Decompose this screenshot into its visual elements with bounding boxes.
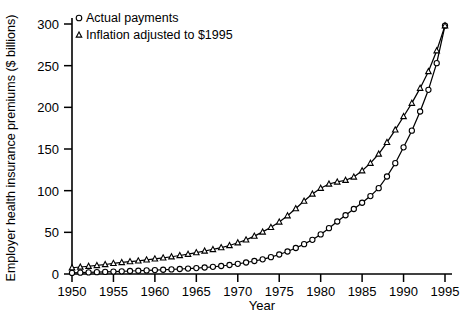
y-tick-label: 250 <box>37 59 59 74</box>
y-tick-label: 150 <box>37 142 59 157</box>
y-tick-label: 0 <box>52 267 59 282</box>
data-point-marker <box>260 229 266 234</box>
data-point-marker <box>152 256 158 261</box>
chart-figure: Employer health insurance premiums ($ bi… <box>0 0 460 326</box>
data-point-marker <box>384 174 389 179</box>
data-point-marker <box>86 263 92 268</box>
data-point-marker <box>144 268 149 273</box>
legend-marker-triangle-icon <box>76 32 82 37</box>
x-tick-label: 1975 <box>265 284 294 299</box>
data-point-marker <box>160 255 166 260</box>
data-point-marker <box>285 249 290 254</box>
data-point-marker <box>301 242 306 247</box>
data-point-marker <box>360 200 365 205</box>
data-point-marker <box>69 265 75 270</box>
x-tick-label: 1955 <box>99 284 128 299</box>
data-point-marker <box>185 266 190 271</box>
data-point-marker <box>368 193 373 198</box>
data-point-marker <box>418 109 423 114</box>
x-tick-label: 1950 <box>58 284 87 299</box>
x-axis-title: Year <box>249 298 276 313</box>
series-inflation-adjusted <box>69 23 448 270</box>
data-point-marker <box>409 128 414 133</box>
data-point-marker <box>194 265 199 270</box>
chart-svg: Employer health insurance premiums ($ bi… <box>0 0 460 326</box>
data-point-marker <box>194 250 200 255</box>
x-tick-label: 1960 <box>140 284 169 299</box>
data-point-marker <box>111 260 117 265</box>
legend-label: Inflation adjusted to $1995 <box>86 28 233 42</box>
data-point-marker <box>185 251 191 256</box>
data-series-group <box>69 23 448 276</box>
data-point-marker <box>210 246 216 251</box>
data-point-marker <box>210 264 215 269</box>
data-point-marker <box>401 145 406 150</box>
data-point-marker <box>86 270 91 275</box>
data-point-marker <box>103 269 108 274</box>
data-point-marker <box>94 270 99 275</box>
data-point-marker <box>393 161 398 166</box>
data-point-marker <box>119 269 124 274</box>
data-point-marker <box>111 269 116 274</box>
data-point-marker <box>293 245 298 250</box>
data-point-marker <box>202 265 207 270</box>
data-point-marker <box>235 240 241 245</box>
data-point-marker <box>227 262 232 267</box>
y-tick-label: 300 <box>37 17 59 32</box>
data-point-marker <box>127 259 133 264</box>
data-point-marker <box>326 226 331 231</box>
data-point-marker <box>426 87 431 92</box>
y-tick-label: 50 <box>45 225 59 240</box>
data-point-marker <box>69 270 74 275</box>
data-point-marker <box>252 233 258 238</box>
data-point-marker <box>177 253 183 258</box>
x-tick-label: 1985 <box>348 284 377 299</box>
data-point-marker <box>318 185 324 190</box>
data-point-marker <box>417 85 423 90</box>
data-point-marker <box>169 267 174 272</box>
data-point-marker <box>252 258 257 263</box>
data-point-marker <box>434 48 440 53</box>
data-point-marker <box>219 263 224 268</box>
data-point-marker <box>326 181 332 186</box>
data-point-marker <box>434 61 439 66</box>
legend-marker-circle-icon <box>76 15 82 21</box>
data-point-marker <box>119 259 125 264</box>
data-point-marker <box>277 252 282 257</box>
chart-legend: Actual paymentsInflation adjusted to $19… <box>76 11 232 42</box>
data-point-marker <box>152 267 157 272</box>
series-actual-payments <box>69 23 447 275</box>
data-point-marker <box>376 186 381 191</box>
data-point-marker <box>161 267 166 272</box>
data-point-marker <box>310 191 316 196</box>
y-axis-ticks: 050100150200250300 <box>37 17 72 282</box>
data-point-marker <box>78 270 83 275</box>
data-point-marker <box>127 268 132 273</box>
data-point-marker <box>426 69 432 74</box>
data-point-marker <box>268 255 273 260</box>
legend-label: Actual payments <box>86 11 178 25</box>
data-point-marker <box>136 268 141 273</box>
data-point-marker <box>318 232 323 237</box>
data-point-marker <box>243 237 249 242</box>
data-point-marker <box>343 213 348 218</box>
x-tick-label: 1980 <box>306 284 335 299</box>
data-point-marker <box>334 179 340 184</box>
x-tick-label: 1970 <box>223 284 252 299</box>
data-point-marker <box>202 248 208 253</box>
data-point-marker <box>351 206 356 211</box>
data-point-marker <box>260 257 265 262</box>
data-point-marker <box>78 264 84 269</box>
data-point-marker <box>268 224 274 229</box>
data-point-marker <box>136 258 142 263</box>
data-point-marker <box>177 266 182 271</box>
data-point-marker <box>94 262 100 267</box>
data-point-marker <box>144 257 150 262</box>
data-point-marker <box>235 261 240 266</box>
data-point-marker <box>227 243 233 248</box>
series-polyline <box>72 26 445 268</box>
data-point-marker <box>343 177 349 182</box>
x-axis-ticks: 1950195519601965197019751980198519901995 <box>58 274 460 299</box>
y-tick-label: 200 <box>37 100 59 115</box>
data-point-marker <box>335 219 340 224</box>
